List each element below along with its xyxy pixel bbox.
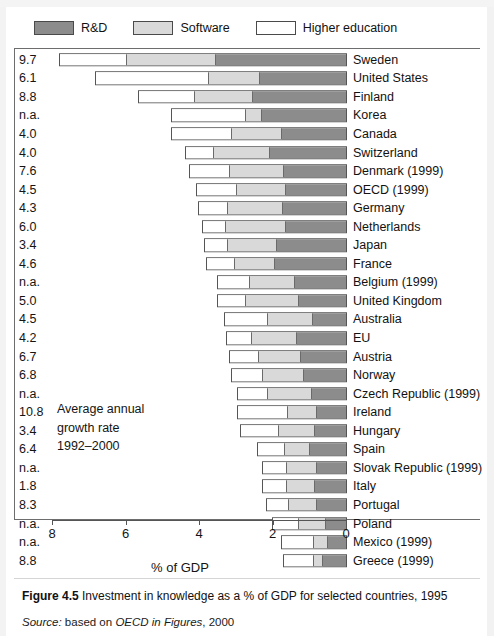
stacked-bar[interactable] [59, 53, 347, 67]
stacked-bar[interactable] [196, 183, 347, 197]
country-label: Portugal [353, 498, 400, 511]
legend-swatch-rd [34, 21, 74, 35]
bar-segment-rd [317, 499, 346, 511]
stacked-bar[interactable] [217, 294, 347, 308]
country-label: Belgium (1999) [353, 276, 438, 289]
source-prefix: based on [65, 616, 112, 628]
axis-tick [126, 520, 127, 525]
bar-segment-rd [283, 202, 346, 214]
chart-row: 4.5Australia [15, 310, 481, 329]
stacked-bar[interactable] [262, 480, 347, 494]
stacked-bar[interactable] [266, 498, 347, 512]
chart-row: 6.1United States [15, 69, 481, 88]
growth-rate-value: 9.7 [19, 53, 49, 66]
stacked-bar[interactable] [226, 331, 347, 345]
stacked-bar[interactable] [206, 257, 347, 271]
country-label: Italy [353, 480, 376, 493]
stacked-bar[interactable] [217, 276, 347, 290]
chart-frame: 9.7Sweden6.1United States8.8Finlandn.a.K… [14, 48, 480, 520]
bar-segment-higher [199, 202, 228, 214]
bar-segment-rd [312, 388, 346, 400]
chart-row: 4.0Switzerland [15, 143, 481, 162]
chart-row: 6.8Norway [15, 366, 481, 385]
growth-rate-value: n.a. [19, 461, 49, 474]
growth-rate-value: 4.3 [19, 202, 49, 215]
bar-segment-higher [96, 73, 209, 85]
note-line-truncated [22, 632, 482, 636]
chart-row: n.a.Slovak Republic (1999) [15, 459, 481, 478]
bar-segment-software [214, 147, 270, 159]
bar-segment-rd [301, 351, 346, 363]
bar-segment-rd [270, 147, 346, 159]
chart-legend: R&DSoftwareHigher education [34, 18, 364, 38]
annotation-line-1: Average annual [57, 400, 144, 419]
stacked-bar[interactable] [257, 443, 347, 457]
growth-rate-value: 10.8 [19, 406, 49, 419]
bar-segment-rd [313, 314, 346, 326]
growth-rate-value: 4.0 [19, 146, 49, 159]
growth-rate-value: 1.8 [19, 480, 49, 493]
bar-segment-software [259, 351, 301, 363]
x-axis-title: % of GDP [14, 560, 346, 575]
bar-segment-software [289, 499, 318, 511]
stacked-bar[interactable] [204, 239, 347, 253]
country-label: Sweden [353, 53, 398, 66]
country-label: Netherlands [353, 220, 420, 233]
stacked-bar[interactable] [189, 164, 347, 178]
bar-segment-software [287, 481, 316, 493]
country-label: Hungary [353, 424, 400, 437]
stacked-bar[interactable] [198, 201, 347, 215]
stacked-bar[interactable] [262, 461, 347, 475]
bar-segment-higher [197, 184, 237, 196]
bar-segment-rd [253, 91, 346, 103]
bar-segment-rd [260, 73, 346, 85]
bar-segment-software [228, 202, 282, 214]
legend-label-software: Software [180, 21, 229, 35]
bar-segment-rd [317, 462, 346, 474]
axis-tick-label: 8 [48, 527, 55, 541]
bar-segment-higher [232, 369, 263, 381]
chart-row: 8.8Finland [15, 88, 481, 107]
stacked-bar[interactable] [171, 109, 347, 123]
annotation-line-3: 1992–2000 [57, 437, 144, 456]
axis-tick-label: 6 [122, 527, 129, 541]
stacked-bar[interactable] [202, 220, 347, 234]
growth-rate-value: 6.1 [19, 72, 49, 85]
bar-segment-rd [310, 444, 346, 456]
stacked-bar[interactable] [237, 387, 347, 401]
stacked-bar[interactable] [171, 127, 347, 141]
stacked-bar[interactable] [237, 405, 347, 419]
chart-row: 6.7Austria [15, 347, 481, 366]
stacked-bar[interactable] [240, 424, 347, 438]
bar-segment-rd [315, 481, 345, 493]
page-edge-right [487, 0, 494, 636]
growth-rate-value: n.a. [19, 387, 49, 400]
growth-rate-value: 6.4 [19, 443, 49, 456]
bar-segment-rd [299, 295, 346, 307]
bar-segment-software [287, 462, 317, 474]
caption-divider [14, 578, 480, 579]
bar-segment-higher [205, 240, 229, 252]
chart-row: 6.0Netherlands [15, 217, 481, 236]
stacked-bar[interactable] [224, 313, 347, 327]
bar-segment-rd [315, 425, 346, 437]
stacked-bar[interactable] [229, 350, 347, 364]
growth-rate-value: 7.6 [19, 165, 49, 178]
stacked-bar[interactable] [95, 72, 347, 86]
growth-rate-value: 6.7 [19, 350, 49, 363]
stacked-bar[interactable] [231, 368, 347, 382]
page-edge-top [0, 0, 494, 7]
country-label: France [353, 257, 392, 270]
bar-segment-software [230, 165, 284, 177]
bar-segment-higher [225, 314, 268, 326]
bar-segment-rd [286, 184, 346, 196]
country-label: Greece (1999) [353, 554, 434, 567]
stacked-bar[interactable] [185, 146, 347, 160]
bar-segment-software [268, 388, 311, 400]
chart-row: n.a.Belgium (1999) [15, 273, 481, 292]
stacked-bar[interactable] [138, 90, 347, 104]
country-label: Austria [353, 350, 392, 363]
bar-segment-higher [60, 54, 128, 66]
axis-tick-label: 0 [342, 527, 349, 541]
legend-swatch-higher [256, 21, 296, 35]
